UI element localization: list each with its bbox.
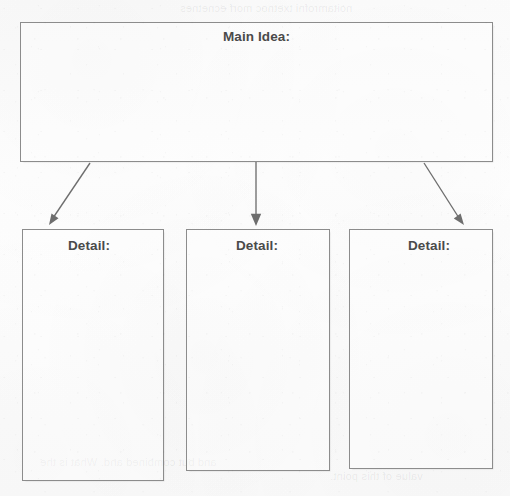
detail-box-2[interactable]: Detail: (186, 229, 330, 471)
detail-box-3[interactable]: Detail: (349, 229, 493, 469)
detail-label-3: Detail: (350, 238, 492, 253)
bleed-through-text-top: noitamrofni txetnoc morf ecnetnes (180, 2, 352, 14)
detail-write-area-1[interactable] (27, 258, 159, 476)
detail-write-area-2[interactable] (191, 258, 325, 466)
main-idea-write-area[interactable] (25, 51, 488, 157)
detail-label-2: Detail: (187, 238, 329, 253)
arrow-to-detail-2-icon (251, 162, 261, 226)
detail-write-area-3[interactable] (354, 258, 488, 464)
worksheet-page: noitamrofni txetnoc morf ecnetnes and bu… (0, 0, 510, 496)
arrow-to-detail-1-icon (49, 163, 90, 225)
arrow-to-detail-3-icon (424, 163, 464, 225)
detail-box-1[interactable]: Detail: (22, 229, 164, 481)
detail-label-1: Detail: (23, 238, 163, 253)
main-idea-label: Main Idea: (21, 29, 492, 44)
main-idea-box[interactable]: Main Idea: (20, 22, 493, 162)
bleed-through-text-bottom-2: value of this point. (330, 470, 423, 482)
